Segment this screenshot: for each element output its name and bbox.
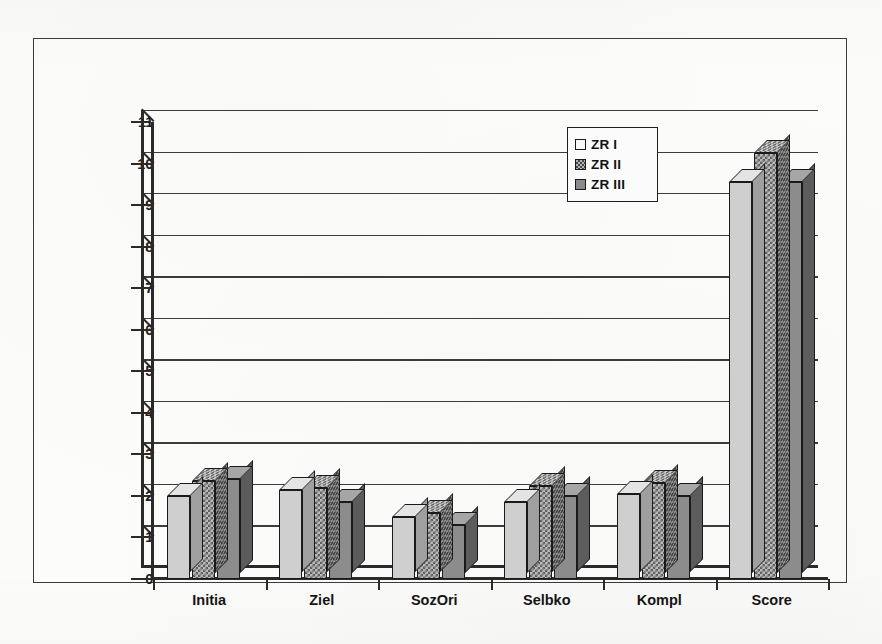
bar [279,490,302,579]
bar [729,182,752,579]
x-axis-category-label: Kompl [637,592,682,608]
bar-front-face [392,517,415,579]
bar-front-face [504,502,527,579]
bar-front-face [167,496,190,579]
gridline [141,152,818,153]
x-axis-tick-mark [153,579,155,590]
legend-swatch-icon [575,139,586,150]
x-axis-category-label: Ziel [309,592,334,608]
gridline [141,401,818,402]
bar-side-face [777,134,790,573]
gridline [141,110,818,111]
chart-frame: 01234567891011 InitiaZielSozOriSelbkoKom… [33,38,847,583]
legend-item: ZR III [575,174,650,194]
bar [392,517,415,579]
bar [617,494,640,579]
x-axis-tick-mark [828,579,830,590]
legend-item: ZR I [575,134,650,154]
gridline [141,276,818,277]
x-axis-tick-mark [603,579,605,590]
x-axis-tick-mark [378,579,380,590]
gridline [141,193,818,194]
legend-label: ZR II [591,157,621,172]
bar [504,502,527,579]
x-axis-tick-mark [716,579,718,590]
legend-label: ZR III [591,177,625,192]
chart-legend: ZR I ZR II ZR III [567,127,658,202]
x-axis-line [151,577,828,580]
legend-swatch-icon [575,159,586,170]
x-axis-category-label: Selbko [523,592,571,608]
bar-side-face [752,163,765,573]
y-axis-line [151,122,154,579]
gridline [141,359,818,360]
bar-side-face [802,163,815,573]
legend-swatch-icon [575,179,586,190]
plot-area: 01234567891011 InitiaZielSozOriSelbkoKom… [153,122,828,579]
bar-front-face [279,490,302,579]
bar-front-face [729,182,752,579]
legend-label: ZR I [591,137,617,152]
x-axis-tick-mark [491,579,493,590]
gridline [141,442,818,443]
x-axis-category-label: SozOri [411,592,458,608]
gridline [141,318,818,319]
x-axis-category-label: Score [752,592,792,608]
bar-front-face [617,494,640,579]
y-axis-tick-mark [131,578,151,580]
legend-item: ZR II [575,154,650,174]
bar [167,496,190,579]
x-axis-category-label: Initia [192,592,226,608]
x-axis-tick-mark [266,579,268,590]
gridline [141,235,818,236]
y-axis-back [141,110,144,567]
